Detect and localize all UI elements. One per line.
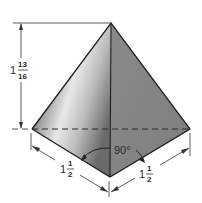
angle-label: 90° bbox=[114, 144, 131, 156]
svg-text:1: 1 bbox=[10, 64, 16, 76]
svg-text:1: 1 bbox=[139, 168, 145, 180]
svg-text:2: 2 bbox=[147, 175, 152, 184]
svg-text:1: 1 bbox=[147, 164, 152, 173]
arrow-right-icon bbox=[100, 186, 108, 192]
svg-text:16: 16 bbox=[18, 72, 27, 81]
arrow-right-icon bbox=[181, 148, 189, 154]
svg-text:2: 2 bbox=[68, 170, 73, 179]
height-label: 1 13 16 bbox=[10, 60, 28, 81]
svg-text:13: 13 bbox=[18, 60, 27, 69]
diagram-svg: 1 13 16 1 1 2 1 1 2 90° bbox=[0, 0, 202, 203]
arrow-left-icon bbox=[111, 186, 119, 192]
arrow-down-icon bbox=[19, 122, 23, 129]
left-edge-label: 1 1 2 bbox=[60, 159, 74, 179]
svg-text:1: 1 bbox=[60, 163, 66, 175]
arrow-up-icon bbox=[19, 23, 23, 30]
arrow-left-icon bbox=[32, 146, 40, 152]
right-edge-label: 1 1 2 bbox=[139, 164, 153, 184]
svg-text:1: 1 bbox=[68, 159, 73, 168]
pyramid-diagram: 1 13 16 1 1 2 1 1 2 90° bbox=[0, 0, 202, 203]
